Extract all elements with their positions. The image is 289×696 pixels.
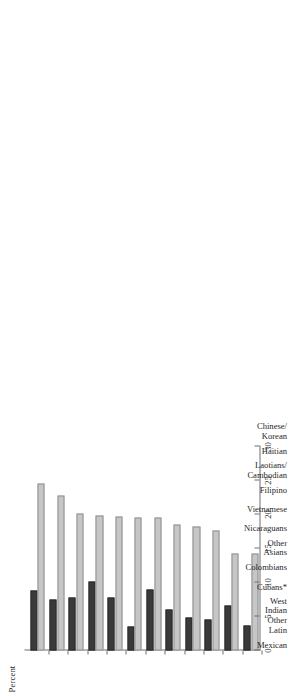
bar-group [146,446,165,650]
bar-group [185,446,204,650]
category-axis-tick [222,650,223,654]
category-label: WestIndian [235,597,287,616]
bar-light [115,516,122,650]
bar-light [76,513,83,650]
bar-light [95,515,102,650]
category-label-line: Indian [235,606,287,615]
category-label-line: Cubans* [235,583,287,592]
category-label-line: Asians [235,548,287,557]
category-label: Chinese/Korean [235,422,287,441]
category-label: Haitian [235,447,287,456]
bar-group [88,446,107,650]
category-label: Colombians [235,563,287,572]
category-label: Cubans* [235,583,287,592]
bar-dark [88,581,95,650]
category-label-line: Latin [235,626,287,635]
bar-dark [107,597,114,650]
value-axis-title: Percent [6,665,16,692]
category-axis-tick [242,650,243,654]
bar-dark [49,599,56,650]
category-label-line: Nicaraguans [235,524,287,533]
bar-dark [127,626,134,650]
category-label-line: Cambodian [235,471,287,480]
bar-light [57,495,64,650]
category-label-line: Haitian [235,447,287,456]
bar-dark [224,605,231,650]
bar-dark [204,619,211,650]
category-axis-tick [106,650,107,654]
bar-group [49,446,68,650]
category-axis-tick [184,650,185,654]
category-axis-tick [164,650,165,654]
category-axis-tick [145,650,146,654]
category-label-line: Mexican [235,641,287,650]
plot-area [28,446,256,650]
category-axis-tick [67,650,68,654]
category-axis-tick [48,650,49,654]
category-label: Nicaraguans [235,524,287,533]
category-axis-tick [87,650,88,654]
bar-light [154,517,161,650]
category-axis-tick [125,650,126,654]
bar-light [173,524,180,650]
bar-light [212,530,219,650]
category-label: OtherAsians [235,539,287,558]
category-label-line: Korean [235,432,287,441]
category-label-line: Vietnamese [235,505,287,514]
bar-dark [185,617,192,650]
category-axis-tick [203,650,204,654]
bar-group [107,446,126,650]
bar-group [127,446,146,650]
bar-light [37,483,44,650]
category-label: Vietnamese [235,505,287,514]
bar-group [30,446,49,650]
bar-dark [68,597,75,650]
category-label: Laotians/Cambodian [235,461,287,480]
category-label: Filipino [235,486,287,495]
bar-dark [146,589,153,650]
category-label: Mexican [235,641,287,650]
category-label: OtherLatin [235,616,287,635]
category-label-line: Colombians [235,563,287,572]
bar-dark [165,609,172,650]
bar-dark [30,590,37,650]
category-label-line: Filipino [235,486,287,495]
bar-group [68,446,87,650]
bar-chart-figure: Percent 051015202530 MexicanOtherLatinWe… [0,0,289,696]
bar-light [134,517,141,650]
bar-group [204,446,223,650]
bar-light [192,526,199,650]
bar-group [165,446,184,650]
